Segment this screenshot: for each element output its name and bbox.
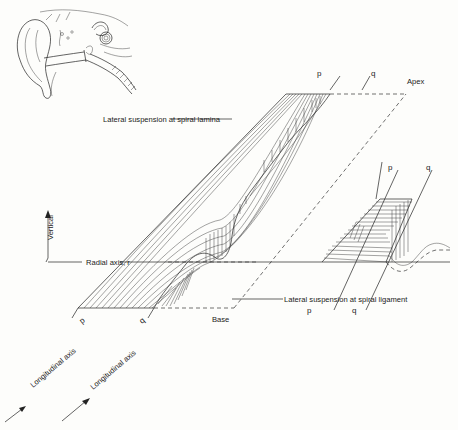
label-longitudinal-axis-p: Longitudinal axis — [29, 346, 78, 389]
label-q-top: q — [371, 69, 375, 78]
membrane-surface — [78, 94, 330, 308]
label-q-right-top: q — [426, 163, 430, 172]
diagram-canvas: p q Apex Lateral suspension at spiral la… — [0, 0, 458, 430]
label-spiral-lamina: Lateral suspension at spiral lamina — [103, 115, 221, 124]
label-q-right-bottom: q — [352, 306, 356, 315]
label-base: Base — [212, 315, 229, 324]
label-q-axis: q — [138, 316, 147, 326]
label-p-top: p — [317, 69, 322, 78]
label-vertical: Vertical — [46, 215, 55, 240]
cross-section-detail — [322, 162, 450, 310]
label-p-right-top: p — [388, 163, 393, 172]
spiral-ligament-diagonal — [234, 94, 406, 308]
basilar-membrane-diagram: p q Apex Lateral suspension at spiral la… — [0, 0, 458, 430]
label-longitudinal-axis-q: Longitudinal axis — [89, 348, 138, 391]
label-p-right-bottom: p — [307, 306, 312, 315]
label-apex: Apex — [407, 77, 425, 86]
label-radial-axis: Radial axis, r — [86, 258, 130, 267]
label-p-axis: p — [78, 315, 88, 325]
label-spiral-ligament: Lateral suspension at spiral ligament — [284, 295, 408, 304]
ear-anatomy-icon — [17, 10, 136, 99]
